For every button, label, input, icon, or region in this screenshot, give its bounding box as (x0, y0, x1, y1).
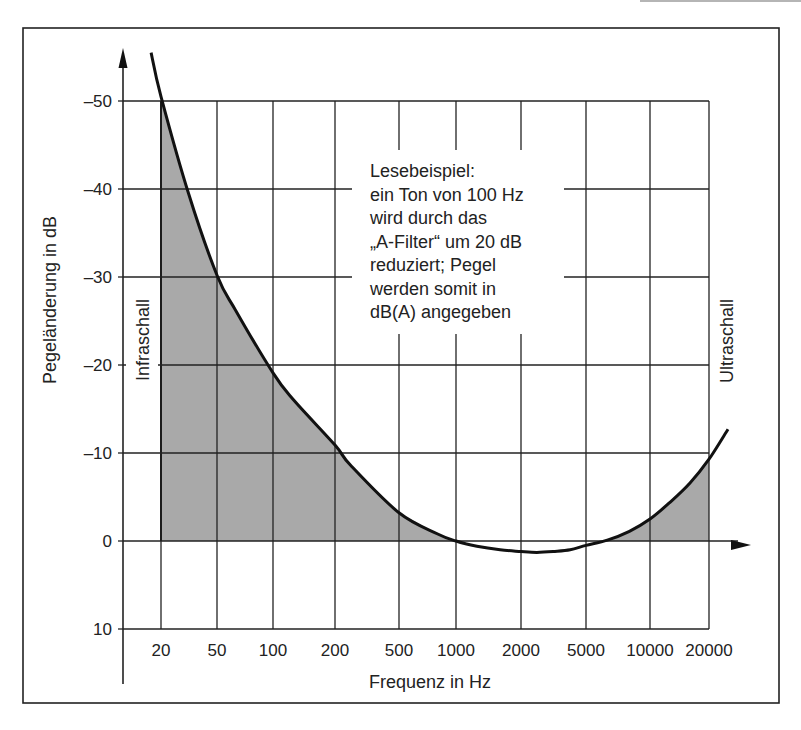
y-axis-arrow (119, 48, 128, 68)
x-tick-label: 20 (152, 641, 171, 660)
ultraschall-label: Ultraschall (717, 299, 737, 383)
note-line: dB(A) angegeben (370, 302, 511, 322)
x-tick-label: 50 (208, 641, 227, 660)
note-line: wird durch das (369, 208, 487, 228)
y-tick-labels: –50–40–30–20–10010 (84, 92, 112, 639)
y-tick-label: –50 (84, 92, 112, 111)
infraschall-label: Infraschall (133, 299, 153, 381)
x-axis-label: Frequenz in Hz (369, 672, 491, 692)
a-weighting-chart: –50–40–30–20–10010 205010020050010002000… (0, 0, 801, 730)
note-line: reduziert; Pegel (370, 255, 496, 275)
note-line: werden somit in (369, 279, 496, 299)
x-tick-label: 200 (321, 641, 349, 660)
note-line: Lesebeispiel: (370, 161, 475, 181)
note-line: ein Ton von 100 Hz (370, 185, 524, 205)
y-tick-label: –30 (84, 268, 112, 287)
x-tick-label: 5000 (567, 641, 605, 660)
x-tick-label: 2000 (502, 641, 540, 660)
x-tick-label: 500 (385, 641, 413, 660)
y-axis-label: Pegeländerung in dB (40, 216, 60, 384)
y-tick-label: –10 (84, 444, 112, 463)
y-tick-label: 0 (103, 532, 112, 551)
x-tick-label: 100 (259, 641, 287, 660)
y-tick-label: 10 (93, 620, 112, 639)
x-tick-label: 10000 (626, 641, 673, 660)
y-tick-label: –20 (84, 356, 112, 375)
y-tick-label: –40 (84, 180, 112, 199)
x-tick-label: 20000 (685, 641, 732, 660)
note-line: „A-Filter“ um 20 dB (370, 232, 522, 252)
x-tick-label: 1000 (437, 641, 475, 660)
x-axis-arrow (731, 540, 751, 550)
x-tick-labels: 20501002005001000200050001000020000 (152, 641, 733, 660)
